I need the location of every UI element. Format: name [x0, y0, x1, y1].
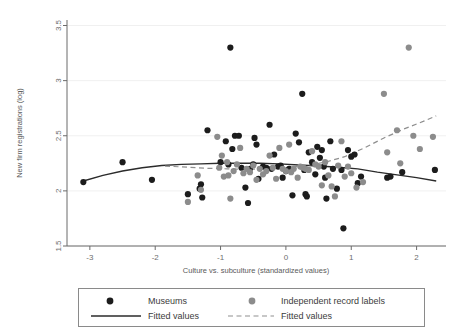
legend: Museums Independent record labels Fitted…	[79, 289, 425, 327]
data-point	[295, 175, 301, 181]
data-point	[304, 193, 310, 199]
data-point	[216, 165, 222, 171]
data-point	[394, 127, 400, 133]
data-point	[253, 177, 259, 183]
data-point	[283, 168, 289, 174]
data-point	[327, 138, 333, 144]
legend-label-fitted-museums: Fitted values	[148, 311, 200, 321]
data-point	[345, 164, 351, 170]
legend-label-independent-record-labels: Independent record labels	[281, 296, 386, 306]
data-point	[198, 187, 204, 193]
legend-label-museums: Museums	[148, 296, 188, 306]
legend-marker-independent-record-labels	[249, 298, 256, 305]
data-point	[276, 145, 282, 151]
x-tick-label: -1	[217, 253, 225, 262]
legend-label-fitted-independent-record-labels: Fitted values	[281, 311, 333, 321]
data-point	[236, 133, 242, 139]
data-point	[358, 173, 364, 179]
data-point	[247, 169, 253, 175]
data-point	[312, 171, 318, 177]
data-point	[273, 176, 279, 182]
data-point	[353, 184, 359, 190]
data-point	[266, 122, 272, 128]
data-point	[198, 181, 204, 187]
data-point	[286, 141, 292, 147]
data-point	[253, 141, 259, 147]
data-point	[410, 133, 416, 139]
data-point	[360, 179, 366, 185]
data-point	[315, 164, 321, 170]
data-point	[270, 165, 276, 171]
x-tick-label: -3	[86, 253, 94, 262]
data-point	[345, 147, 351, 153]
data-point	[251, 135, 257, 141]
data-point	[406, 44, 412, 50]
data-point	[280, 175, 286, 181]
y-tick-label: 3.5	[54, 19, 63, 31]
y-tick-label: 2	[54, 188, 63, 193]
data-point	[329, 183, 335, 189]
data-point	[317, 155, 323, 161]
x-axis-title: Culture vs. subculture (standardized val…	[183, 266, 330, 275]
y-tick-label: 2.5	[54, 130, 63, 142]
data-point	[322, 159, 328, 165]
y-tick-label: 1.5	[54, 240, 63, 252]
data-point	[234, 161, 240, 167]
x-tick-label: 1	[349, 253, 354, 262]
data-point	[348, 170, 354, 176]
data-point	[119, 159, 125, 165]
data-point	[149, 177, 155, 183]
data-point	[432, 167, 438, 173]
data-point	[340, 225, 346, 231]
data-point	[263, 168, 269, 174]
data-point	[245, 200, 251, 206]
data-point	[342, 173, 348, 179]
data-point	[306, 167, 312, 173]
data-point	[293, 130, 299, 136]
data-point	[185, 199, 191, 205]
data-point	[332, 193, 338, 199]
figure-background	[0, 0, 451, 334]
data-point	[417, 146, 423, 152]
data-point	[231, 168, 237, 174]
legend-border	[79, 289, 425, 327]
data-point	[296, 139, 302, 145]
data-point	[224, 159, 230, 165]
data-point	[250, 162, 256, 168]
legend-marker-museums	[107, 298, 114, 305]
data-point	[384, 149, 390, 155]
data-point	[217, 159, 223, 165]
data-point	[335, 162, 341, 168]
x-tick-label: 0	[284, 253, 289, 262]
data-point	[325, 172, 331, 178]
data-point	[319, 147, 325, 153]
data-point	[225, 172, 231, 178]
data-point	[237, 145, 243, 151]
data-point	[229, 146, 235, 152]
data-point	[227, 196, 233, 202]
data-point	[242, 184, 248, 190]
data-point	[223, 138, 229, 144]
data-point	[291, 166, 297, 172]
data-point	[227, 44, 233, 50]
y-tick-label: 3	[54, 78, 63, 83]
data-point	[351, 151, 357, 157]
data-point	[319, 182, 325, 188]
data-point	[323, 196, 329, 202]
data-point	[387, 173, 393, 179]
scatter-plot-figure: 1.522.533.5 -3-2-1012 New firm registrat…	[0, 0, 451, 334]
y-axis-title: New firm registrations (log)	[15, 88, 24, 178]
x-tick-label: -2	[152, 253, 160, 262]
data-point	[381, 91, 387, 97]
data-point	[430, 134, 436, 140]
data-point	[330, 166, 336, 172]
data-point	[257, 166, 263, 172]
data-point	[299, 91, 305, 97]
data-point	[204, 127, 210, 133]
data-point	[195, 172, 201, 178]
data-point	[289, 192, 295, 198]
data-point	[338, 138, 344, 144]
data-point	[266, 153, 272, 159]
data-point	[309, 148, 315, 154]
x-tick-label: 2	[414, 253, 419, 262]
